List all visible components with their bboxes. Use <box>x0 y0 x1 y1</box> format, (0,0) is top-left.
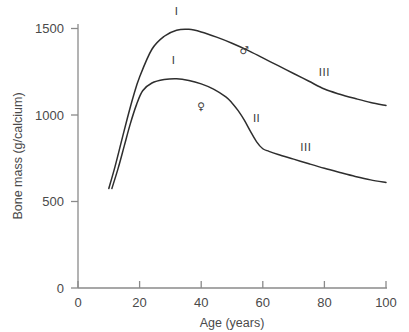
phase-label-i-male: I <box>175 5 179 17</box>
x-axis-title: Age (years) <box>200 316 265 330</box>
y-axis-ticks <box>71 29 78 289</box>
y-axis-title: Bone mass (g/calcium) <box>11 92 25 219</box>
phase-label-i-female: I <box>172 54 176 66</box>
y-tick-label-1500: 1500 <box>35 21 64 36</box>
bone-mass-chart: 1500 1000 500 0 0 20 40 60 80 100 Age (y… <box>0 0 409 332</box>
y-tick-label-500: 500 <box>42 194 64 209</box>
x-tick-label-80: 80 <box>317 295 331 310</box>
chart-plot-area: 1500 1000 500 0 0 20 40 60 80 100 Age (y… <box>0 0 409 332</box>
x-tick-label-100: 100 <box>375 295 397 310</box>
phase-label-iii-female: III <box>300 141 311 153</box>
x-tick-label-20: 20 <box>132 295 146 310</box>
x-tick-label-60: 60 <box>256 295 270 310</box>
phase-label-ii-female: II <box>253 112 260 124</box>
male-sex-symbol-icon: ♂ <box>240 44 249 56</box>
x-tick-label-40: 40 <box>194 295 208 310</box>
y-tick-label-0: 0 <box>57 281 64 296</box>
x-tick-label-0: 0 <box>74 295 81 310</box>
x-axis-ticks <box>78 281 386 288</box>
y-tick-label-1000: 1000 <box>35 108 64 123</box>
female-sex-symbol-icon: ♀ <box>197 100 205 112</box>
phase-label-iii-male: III <box>319 66 330 78</box>
